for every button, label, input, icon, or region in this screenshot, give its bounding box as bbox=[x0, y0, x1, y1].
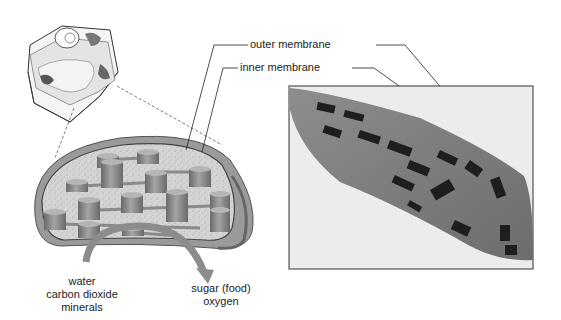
chloroplast-illustration bbox=[35, 136, 253, 284]
electron-micrograph bbox=[289, 86, 533, 269]
plant-cell-illustration bbox=[28, 26, 118, 122]
output-oxygen: oxygen bbox=[186, 295, 256, 308]
outputs-list: sugar (food) oxygen bbox=[186, 282, 256, 308]
input-minerals: minerals bbox=[30, 301, 134, 314]
input-carbon-dioxide: carbon dioxide bbox=[30, 288, 134, 301]
output-sugar: sugar (food) bbox=[186, 282, 256, 295]
inputs-list: water carbon dioxide minerals bbox=[30, 275, 134, 314]
input-water: water bbox=[30, 275, 134, 288]
label-outer-membrane: outer membrane bbox=[250, 38, 331, 51]
label-inner-membrane: inner membrane bbox=[240, 61, 320, 74]
